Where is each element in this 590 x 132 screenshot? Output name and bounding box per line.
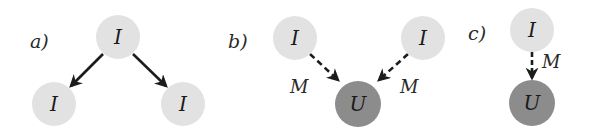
edge-b-left-to-u [310,54,338,80]
panel-label-b: b) [228,30,248,52]
node-label: I [113,25,123,49]
diagram-canvas: a) I I I b) M M I I [0,0,590,132]
panel-label-c: c) [468,22,486,44]
node-b-right: I [401,16,445,60]
node-label: U [350,92,368,116]
node-b-left: I [273,16,317,60]
edge-a-top-to-left [71,54,103,86]
node-label: U [524,91,542,115]
node-c-top: I [510,8,554,52]
node-label: I [527,18,537,42]
node-label: I [418,26,428,50]
node-label: I [49,92,59,116]
node-label: I [290,26,300,50]
panel-c: c) M I U [468,8,561,126]
node-a-right: I [161,82,205,126]
edge-label-b-right: M [399,76,419,97]
panel-label-a: a) [30,30,49,52]
node-b-u: U [335,81,381,127]
node-a-top: I [96,15,140,59]
node-c-u: U [509,80,555,126]
panel-b: b) M M I I U [228,16,445,127]
node-label: I [178,92,188,116]
node-a-left: I [32,82,76,126]
edge-label-b-left: M [289,76,309,97]
edge-a-top-to-right [133,54,166,86]
panel-a: a) I I I [30,15,205,126]
edge-label-c: M [541,51,561,72]
